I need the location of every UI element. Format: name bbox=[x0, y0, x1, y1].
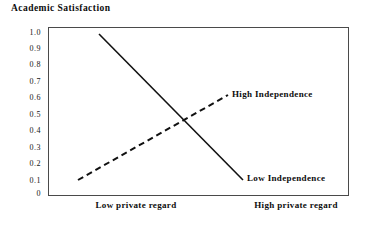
series-label-high-independence: High Independence bbox=[232, 89, 313, 99]
chart-screenshot: Academic Satisfaction 1.0 0.9 0.8 0.7 0.… bbox=[0, 0, 367, 228]
y-tick-0-1: 0.1 bbox=[30, 176, 42, 185]
y-axis-tick-labels: 1.0 0.9 0.8 0.7 0.6 0.5 0.4 0.3 0.2 0.1 … bbox=[0, 27, 44, 196]
y-tick-0-4: 0.4 bbox=[30, 126, 42, 135]
y-tick-0-9: 0.9 bbox=[30, 44, 42, 53]
y-tick-0-2: 0.2 bbox=[30, 159, 42, 168]
x-label-low-private-regard: Low private regard bbox=[95, 200, 176, 210]
x-label-high-private-regard: High private regard bbox=[254, 200, 337, 210]
y-tick-0-7: 0.7 bbox=[30, 77, 42, 86]
y-tick-0-3: 0.3 bbox=[30, 143, 42, 152]
y-tick-0-8: 0.8 bbox=[30, 60, 42, 69]
y-tick-0: 0 bbox=[37, 189, 42, 198]
y-tick-0-5: 0.5 bbox=[30, 110, 42, 119]
chart-title: Academic Satisfaction bbox=[11, 3, 110, 13]
y-tick-1-0: 1.0 bbox=[30, 28, 42, 37]
y-tick-0-6: 0.6 bbox=[30, 93, 42, 102]
plot-area bbox=[48, 27, 349, 196]
series-label-low-independence: Low Independence bbox=[247, 173, 325, 183]
